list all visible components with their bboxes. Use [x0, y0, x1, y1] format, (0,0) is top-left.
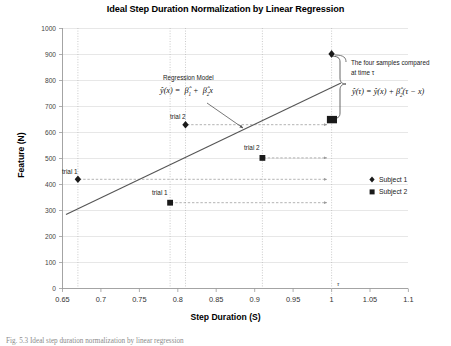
x-tick-label: 0.75	[119, 295, 159, 304]
tau-axis-marker: τ	[337, 280, 339, 287]
legend-marker-subject1	[369, 177, 374, 183]
point-label-subject2-trial1: trial 1	[152, 189, 168, 196]
figure-caption: Fig. 5.3 Ideal step duration normalizati…	[6, 337, 184, 345]
x-tick-label: 1.1	[388, 295, 428, 304]
y-tick-label: 100	[22, 259, 56, 266]
y-tick-label: 0	[22, 285, 56, 292]
x-tick-label: 1	[312, 295, 352, 304]
y-tick-label: 400	[22, 181, 56, 188]
regression-line	[66, 83, 341, 214]
y-tick-label: 1000	[22, 25, 56, 32]
marker-subject1-trial2	[182, 121, 188, 129]
x-tick-label: 0.65	[43, 295, 83, 304]
point-label-subject1-trial1: trial 1	[62, 168, 78, 175]
samples-compared-line2: at time τ	[351, 69, 374, 76]
point-label-subject2-trial2: trial 2	[244, 144, 260, 151]
y-tick-label: 200	[22, 233, 56, 240]
samples-callout-connector	[335, 55, 346, 62]
legend-marker-subject2	[370, 189, 375, 194]
x-tick-marks	[63, 289, 409, 293]
figure-container: Ideal Step Duration Normalization by Lin…	[0, 0, 451, 346]
y-tick-marks	[59, 29, 63, 289]
y-tick-label: 800	[22, 77, 56, 84]
marker-subject2-trial1	[167, 200, 173, 206]
y-tick-label: 300	[22, 207, 56, 214]
y-tick-label: 700	[22, 103, 56, 110]
marker-subject2-tau	[327, 116, 337, 123]
marker-subject2-trial2	[260, 155, 266, 161]
point-label-subject1-trial2: trial 2	[170, 113, 186, 120]
marker-subject1-trial1	[75, 176, 81, 184]
x-tick-label: 0.85	[196, 295, 236, 304]
samples-compared-line1: The four samples compared	[351, 59, 429, 66]
legend-label-subject1: Subject 1	[379, 176, 407, 183]
y-tick-label: 500	[22, 155, 56, 162]
x-tick-label: 0.8	[158, 295, 198, 304]
regression-model-formula: ŷ(x) = β̂1 + β̂2x	[160, 86, 213, 97]
legend-label-subject2: Subject 2	[379, 188, 407, 195]
x-tick-label: 1.05	[350, 295, 390, 304]
x-tick-label: 0.9	[235, 295, 275, 304]
y-tick-label: 900	[22, 51, 56, 58]
x-tick-label: 0.95	[273, 295, 313, 304]
samples-compared-formula: ŷ(τ) = ŷ(x) + β̂2(τ − x)	[352, 87, 424, 98]
regression-model-title: Regression Model	[163, 74, 214, 81]
x-tick-label: 0.7	[81, 295, 121, 304]
y-tick-label: 600	[22, 129, 56, 136]
